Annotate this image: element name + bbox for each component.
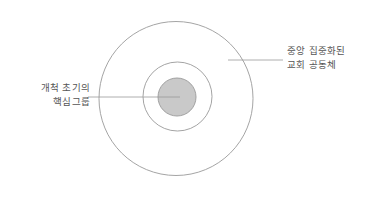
core-group-label-line1: 개척 초기의: [8, 81, 90, 95]
community-label-line1: 중앙 집중화된: [287, 44, 373, 58]
diagram-container: 개척 초기의 핵심그룹 중앙 집중화된 교회 공동체: [0, 0, 376, 197]
community-label-line2: 교회 공동체: [287, 58, 373, 72]
core-group-label-line2: 핵심그룹: [8, 95, 90, 109]
core-group-label: 개척 초기의 핵심그룹: [8, 81, 90, 109]
community-label: 중앙 집중화된 교회 공동체: [287, 44, 373, 72]
